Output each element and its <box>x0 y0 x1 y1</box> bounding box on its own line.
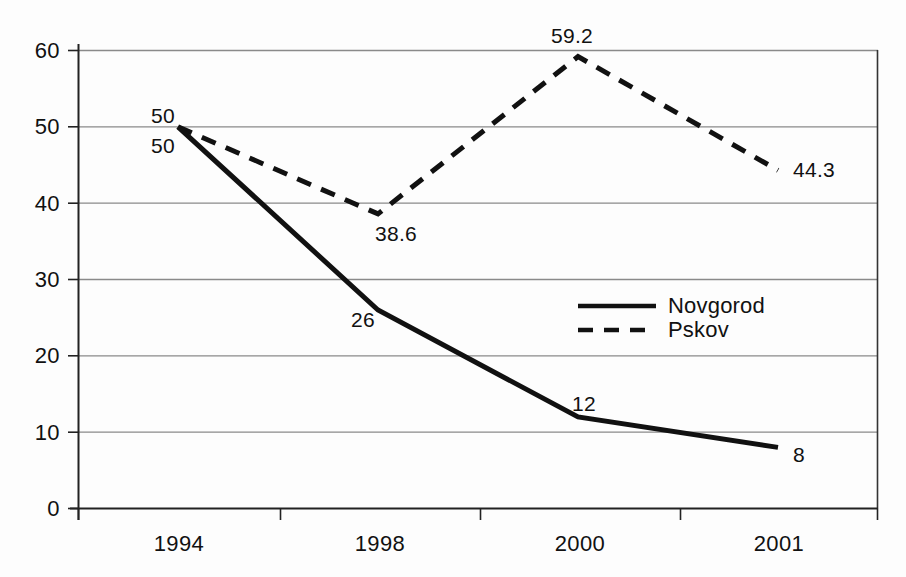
y-axis-ticks <box>68 51 78 509</box>
y-tick-label-30: 30 <box>4 267 60 293</box>
data-label-novgorod-1994: 50 <box>151 104 175 128</box>
y-tick-label-0: 0 <box>4 496 60 522</box>
x-tick-label-1994: 1994 <box>119 531 239 557</box>
chart-canvas <box>0 0 906 577</box>
y-tick-label-50: 50 <box>4 114 60 140</box>
data-label-novgorod-2000: 12 <box>572 392 596 416</box>
legend-item-pskov: Pskov <box>668 317 729 343</box>
data-label-pskov-2001: 44.3 <box>793 158 835 182</box>
x-tick-label-1998: 1998 <box>320 531 440 557</box>
y-tick-label-10: 10 <box>4 420 60 446</box>
x-tick-label-2001: 2001 <box>719 531 839 557</box>
data-label-pskov-1994: 50 <box>151 134 175 158</box>
x-axis-ticks <box>79 508 878 520</box>
data-label-pskov-2000: 59.2 <box>551 24 593 48</box>
y-tick-label-20: 20 <box>4 343 60 369</box>
data-label-novgorod-1998: 26 <box>351 308 375 332</box>
data-label-novgorod-2001: 8 <box>793 443 805 467</box>
legend-item-novgorod: Novgorod <box>668 293 765 319</box>
line-chart: 60 50 40 30 20 10 0 1994 1998 2000 2001 … <box>0 0 906 577</box>
data-label-pskov-1998: 38.6 <box>375 222 417 246</box>
y-tick-label-60: 60 <box>4 38 60 64</box>
x-tick-label-2000: 2000 <box>520 531 640 557</box>
y-tick-label-40: 40 <box>4 191 60 217</box>
